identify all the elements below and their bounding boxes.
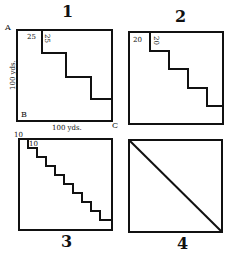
figure-2-square — [129, 32, 223, 124]
figure-1-side-vertical: 100 yds. — [9, 60, 17, 90]
figure-4-diagonal — [130, 141, 221, 231]
figure-2-step-height: 20 — [152, 36, 160, 45]
figure-3-step-height: 10 — [29, 140, 38, 148]
corner-label-b: B — [21, 110, 27, 119]
figure-2: 2 20 20 — [129, 7, 223, 124]
staircase-diagram: 1 A B C 25 25 100 yds. 100 yds. 2 20 20 … — [0, 0, 233, 254]
corner-label-a: A — [4, 23, 11, 32]
figure-3-step-width: 10 — [14, 131, 23, 139]
figure-1-staircase — [42, 30, 112, 99]
figure-4: 4 — [129, 140, 222, 253]
figure-3-number: 3 — [61, 232, 72, 251]
figure-2-number: 2 — [175, 7, 186, 26]
figure-1-side-horizontal: 100 yds. — [52, 124, 82, 132]
figure-1-number: 1 — [62, 2, 73, 21]
figure-4-number: 4 — [177, 234, 188, 253]
figure-3: 10 10 3 — [14, 131, 112, 251]
figure-1-step-height: 25 — [43, 34, 51, 43]
figure-2-step-width: 20 — [133, 36, 142, 44]
figure-1: 1 A B C 25 25 100 yds. 100 yds. — [4, 2, 118, 132]
figure-3-staircase — [28, 139, 112, 220]
corner-label-c: C — [112, 121, 118, 130]
figure-1-step-width: 25 — [27, 33, 36, 41]
figure-1-square — [17, 30, 112, 121]
